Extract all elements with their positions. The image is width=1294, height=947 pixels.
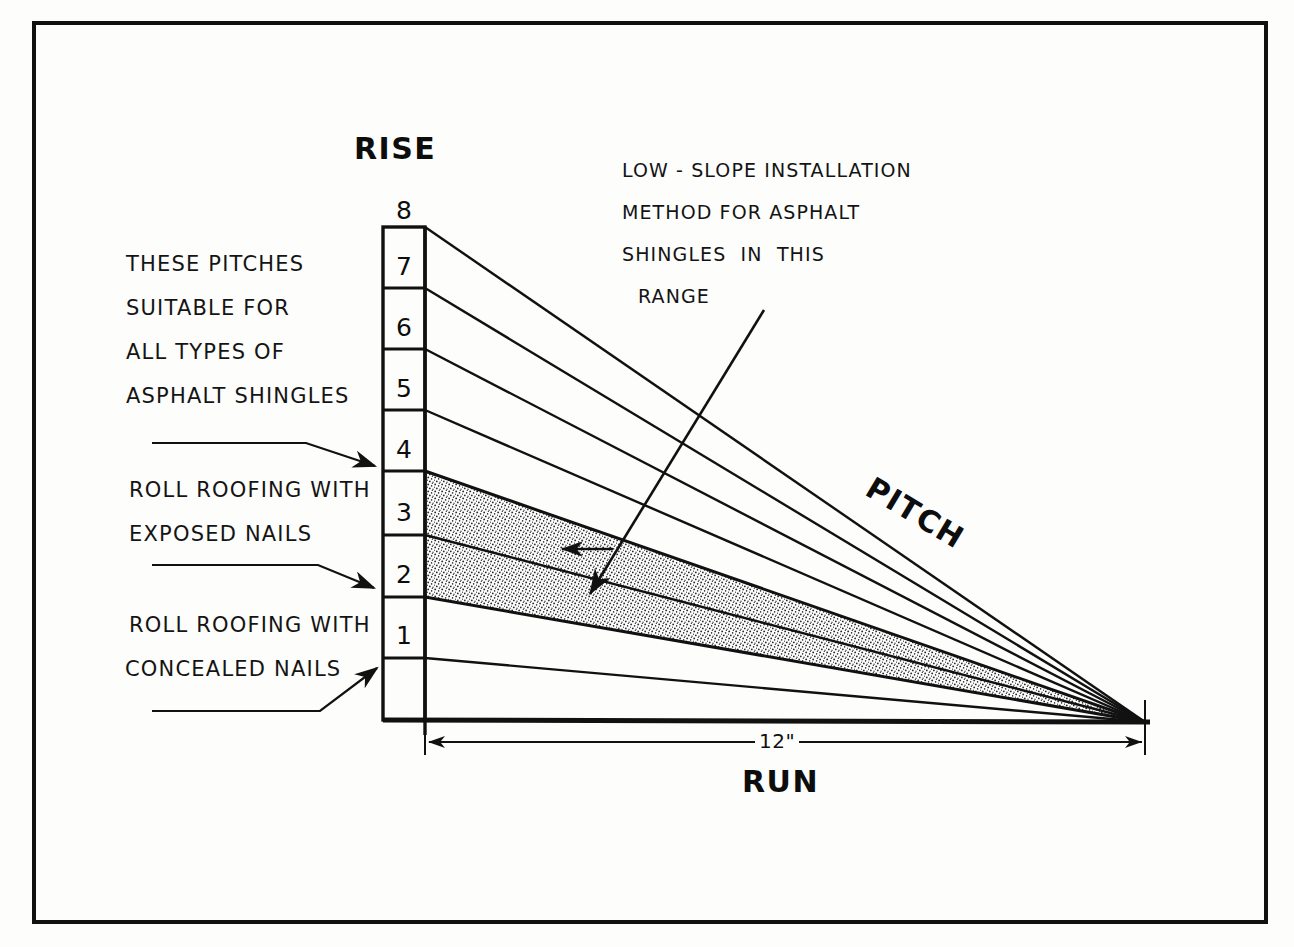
pitch-line-3 bbox=[425, 535, 1145, 722]
these-pitches-line-1: THESE PITCHES bbox=[126, 252, 304, 276]
leader-these-pitches bbox=[152, 443, 375, 466]
rise-tick-2: 2 bbox=[383, 560, 425, 589]
concealed-nails-line-1: ROLL ROOFING WITH bbox=[129, 613, 371, 637]
rise-tick-8: 8 bbox=[383, 196, 425, 225]
low-slope-line-4: RANGE bbox=[638, 285, 710, 307]
rise-scale-rungs bbox=[383, 288, 425, 658]
low-slope-line-2: METHOD FOR ASPHALT bbox=[622, 201, 860, 223]
rise-tick-7: 7 bbox=[383, 252, 425, 281]
rise-tick-4: 4 bbox=[383, 435, 425, 464]
rise-tick-6: 6 bbox=[383, 313, 425, 342]
low-slope-line-1: LOW - SLOPE INSTALLATION bbox=[622, 159, 912, 181]
exposed-nails-line-1: ROLL ROOFING WITH bbox=[129, 478, 371, 502]
concealed-nails-line-2: CONCEALED NAILS bbox=[125, 657, 341, 681]
run-dimension-value: 12" bbox=[755, 729, 799, 753]
rise-tick-3: 3 bbox=[383, 498, 425, 527]
exposed-nails-line-2: EXPOSED NAILS bbox=[129, 522, 312, 546]
these-pitches-line-2: SUITABLE FOR bbox=[126, 296, 290, 320]
these-pitches-line-4: ASPHALT SHINGLES bbox=[126, 384, 350, 408]
rise-axis-label: RISE bbox=[354, 131, 436, 166]
rise-tick-1: 1 bbox=[383, 621, 425, 650]
rise-tick-5: 5 bbox=[383, 374, 425, 403]
low-slope-line-3: SHINGLES IN THIS bbox=[622, 243, 825, 265]
page-border bbox=[34, 23, 1266, 922]
leader-low-slope bbox=[590, 310, 764, 594]
diagram-vector-layer bbox=[0, 0, 1294, 947]
these-pitches-line-3: ALL TYPES OF bbox=[126, 340, 285, 364]
run-baseline bbox=[383, 720, 1150, 722]
diagram-canvas: RISE RUN PITCH 8 7 6 5 4 3 2 1 THESE PIT… bbox=[0, 0, 1294, 947]
leader-exposed-nails bbox=[152, 565, 374, 588]
run-axis-label: RUN bbox=[742, 764, 819, 799]
